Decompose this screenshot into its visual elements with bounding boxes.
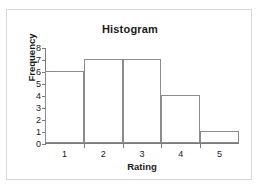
y-tick-label: 1 (36, 128, 41, 137)
x-axis-tick-labels: 12345 (45, 148, 239, 160)
x-tick-label: 3 (139, 148, 144, 160)
x-axis-title: Rating (45, 161, 239, 172)
x-tick-label: 4 (178, 148, 183, 160)
x-axis-line (45, 143, 239, 144)
plot-area: 012345678 (45, 40, 239, 144)
y-tick-label: 4 (36, 92, 41, 101)
chart-title: Histogram (7, 23, 253, 35)
y-tick-label: 8 (36, 44, 41, 53)
histogram-bar (200, 131, 239, 143)
chart-container: Histogram Frequency 012345678 12345 Rati… (6, 9, 252, 180)
x-tick-label: 1 (62, 148, 67, 160)
histogram-bar (161, 95, 200, 143)
histogram-bar (84, 59, 123, 143)
y-tick-label: 2 (36, 116, 41, 125)
x-tick-label: 2 (101, 148, 106, 160)
y-tick-label: 7 (36, 56, 41, 65)
y-tick-label: 6 (36, 68, 41, 77)
y-tick-label: 0 (36, 140, 41, 149)
y-tick-mark (42, 60, 46, 61)
x-tick-label: 5 (217, 148, 222, 160)
y-axis-title: Frequency (26, 28, 37, 88)
histogram-bar (45, 71, 84, 143)
y-tick-mark (42, 144, 46, 145)
y-tick-mark (42, 48, 46, 49)
y-tick-label: 5 (36, 80, 41, 89)
histogram-bar (123, 59, 162, 143)
y-tick-label: 3 (36, 104, 41, 113)
